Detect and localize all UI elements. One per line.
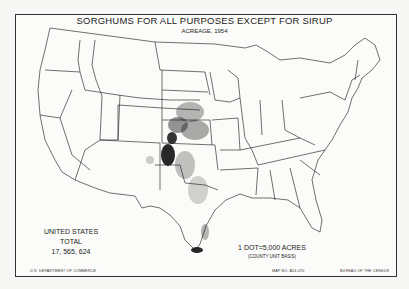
scale-label: 1 DOT=5,000 ACRES xyxy=(232,243,312,252)
footer-right: BUREAU OF THE CENSUS xyxy=(340,269,389,273)
dot-clusters xyxy=(146,102,209,253)
footer-left: U.S. DEPARTMENT OF COMMERCE xyxy=(30,269,96,273)
us-total: UNITED STATES TOTAL 17, 565, 624 xyxy=(36,227,106,257)
dot-scale-legend: 1 DOT=5,000 ACRES (COUNTY UNIT BASIS) xyxy=(232,243,312,261)
scale-basis: (COUNTY UNIT BASIS) xyxy=(232,252,312,261)
total-value: 17, 565, 624 xyxy=(36,247,106,257)
map-subtitle: ACREAGE, 1954 xyxy=(0,28,409,34)
total-label: UNITED STATES TOTAL xyxy=(36,227,106,247)
map-title: SORGHUMS FOR ALL PURPOSES EXCEPT FOR SIR… xyxy=(0,15,409,26)
footer-center: MAP NO. A54-070 xyxy=(272,269,305,273)
us-outline xyxy=(38,28,380,250)
